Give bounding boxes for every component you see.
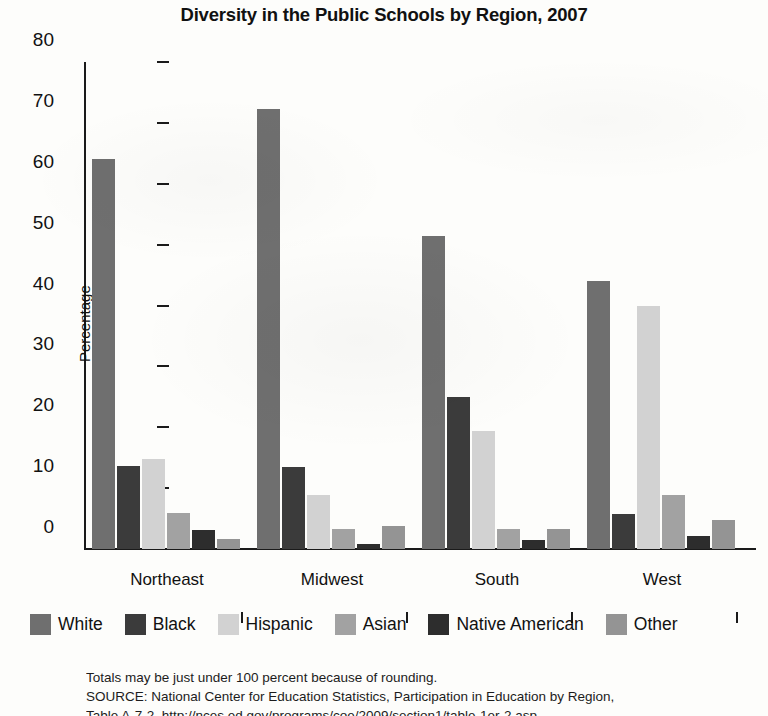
- bar-northeast-native-american: [192, 530, 215, 549]
- bar-midwest-hispanic: [307, 495, 330, 549]
- legend-label-hispanic: Hispanic: [246, 614, 313, 635]
- bar-west-black: [612, 514, 635, 549]
- y-axis-title: Percentage: [76, 285, 93, 362]
- y-tick-label-10: 10: [8, 455, 54, 477]
- legend-swatch-native-american: [428, 614, 449, 635]
- legend-item-hispanic[interactable]: Hispanic: [218, 614, 313, 635]
- bars-midwest: [257, 62, 405, 549]
- legend-label-asian: Asian: [363, 614, 407, 635]
- legend-swatch-other: [606, 614, 627, 635]
- bar-west-other: [712, 520, 735, 549]
- bar-midwest-black: [282, 467, 305, 549]
- chart-notes: Totals may be just under 100 percent bec…: [86, 668, 746, 716]
- bar-south-black: [447, 397, 470, 549]
- y-tick-label-0: 0: [8, 516, 54, 538]
- bar-northeast-white: [92, 159, 115, 549]
- chart-legend: WhiteBlackHispanicAsianNative AmericanOt…: [30, 614, 760, 635]
- legend-swatch-asian: [335, 614, 356, 635]
- bar-west-asian: [662, 495, 685, 549]
- y-tick-label-70: 70: [8, 90, 54, 112]
- x-axis-label-northeast: Northeast: [74, 570, 260, 590]
- legend-item-black[interactable]: Black: [125, 614, 196, 635]
- legend-item-asian[interactable]: Asian: [335, 614, 407, 635]
- legend-item-other[interactable]: Other: [606, 614, 678, 635]
- bar-midwest-white: [257, 109, 280, 549]
- chart-title: Diversity in the Public Schools by Regio…: [0, 4, 768, 26]
- legend-item-white[interactable]: White: [30, 614, 103, 635]
- legend-label-black: Black: [153, 614, 196, 635]
- bar-midwest-asian: [332, 529, 355, 549]
- bar-south-native-american: [522, 540, 545, 549]
- legend-label-white: White: [58, 614, 103, 635]
- bar-south-white: [422, 236, 445, 550]
- note-rounding: Totals may be just under 100 percent bec…: [86, 668, 746, 687]
- bars-south: [422, 62, 570, 549]
- bar-west-hispanic: [637, 306, 660, 550]
- note-source: SOURCE: National Center for Education St…: [86, 687, 746, 706]
- bar-midwest-other: [382, 526, 405, 549]
- bar-northeast-hispanic: [142, 459, 165, 549]
- x-axis-label-midwest: Midwest: [239, 570, 425, 590]
- bar-south-other: [547, 529, 570, 549]
- bar-south-hispanic: [472, 431, 495, 549]
- legend-swatch-white: [30, 614, 51, 635]
- y-tick-label-60: 60: [8, 151, 54, 173]
- note-source-url: Table A-7-2, http://nces.ed.gov/programs…: [86, 706, 746, 716]
- plot-area: Percentage 01020304050607080 NortheastMi…: [84, 62, 756, 549]
- y-tick-label-30: 30: [8, 333, 54, 355]
- legend-swatch-hispanic: [218, 614, 239, 635]
- bar-west-white: [587, 281, 610, 549]
- bar-south-asian: [497, 529, 520, 549]
- y-tick-label-40: 40: [8, 273, 54, 295]
- chart-page: Diversity in the Public Schools by Regio…: [0, 0, 768, 716]
- bar-west-native-american: [687, 536, 710, 549]
- x-axis-label-south: South: [404, 570, 590, 590]
- x-axis-label-west: West: [569, 570, 755, 590]
- bars-west: [587, 62, 735, 549]
- legend-label-native-american: Native American: [456, 614, 583, 635]
- legend-swatch-black: [125, 614, 146, 635]
- legend-label-other: Other: [634, 614, 678, 635]
- bar-northeast-asian: [167, 513, 190, 549]
- bar-northeast-other: [217, 539, 240, 549]
- bars-northeast: [92, 62, 240, 549]
- y-tick-label-80: 80: [8, 29, 54, 51]
- bar-midwest-native-american: [357, 544, 380, 549]
- y-tick-label-50: 50: [8, 212, 54, 234]
- legend-item-native-american[interactable]: Native American: [428, 614, 583, 635]
- bar-northeast-black: [117, 466, 140, 549]
- y-tick-label-20: 20: [8, 394, 54, 416]
